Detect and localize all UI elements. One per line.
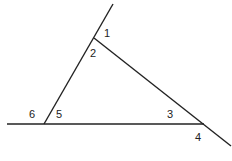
angle-label-6: 6 [29,108,35,120]
angle-label-2: 2 [90,47,96,59]
right-side-line [94,38,231,146]
angle-label-1: 1 [104,27,110,39]
triangle-diagram: 1 2 3 4 5 6 [0,0,232,161]
angle-label-4: 4 [195,131,201,143]
left-side-line [44,4,113,124]
angle-label-5: 5 [56,108,62,120]
angle-label-3: 3 [167,108,173,120]
